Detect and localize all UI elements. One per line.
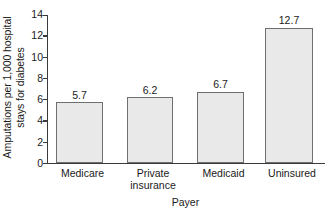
y-tick-label-4: 4 <box>23 115 43 126</box>
y-tick-label-12: 12 <box>23 30 43 41</box>
bar-value-label-medicaid: 6.7 <box>197 79 244 90</box>
bar-value-label-medicare: 5.7 <box>56 90 103 101</box>
x-axis-title-text: Payer <box>172 196 199 208</box>
y-axis-title-line-1: Amputations per 1,000 hospital <box>2 17 15 159</box>
bar-uninsured[interactable] <box>265 28 313 163</box>
x-tick-label-medicare: Medicare <box>47 167 118 179</box>
x-axis-title: Payer <box>0 196 333 208</box>
bar-private-insurance[interactable] <box>127 97 173 163</box>
x-tick-label-medicaid-line-1: Medicaid <box>190 167 257 179</box>
y-tick-label-14: 14 <box>23 9 43 20</box>
y-axis-tick-labels: 0 2 4 6 8 10 12 14 <box>23 0 43 217</box>
y-tick-label-6: 6 <box>23 94 43 105</box>
x-tick-label-private-insurance: Private insurance <box>120 167 186 191</box>
x-tick-label-medicaid: Medicaid <box>190 167 257 179</box>
x-tick-label-uninsured: Uninsured <box>259 167 325 179</box>
bar-medicaid[interactable] <box>197 92 244 163</box>
y-tick-label-10: 10 <box>23 52 43 63</box>
bar-medicare[interactable] <box>56 102 103 163</box>
x-tick-label-private-insurance-line-2: insurance <box>120 179 186 191</box>
bar-chart-figure: Amputations per 1,000 hospital stays for… <box>0 0 333 217</box>
bar-value-label-uninsured: 12.7 <box>265 15 313 26</box>
x-tick-label-private-insurance-line-1: Private <box>120 167 186 179</box>
x-tick-label-uninsured-line-1: Uninsured <box>259 167 325 179</box>
y-tick-label-0: 0 <box>23 158 43 169</box>
x-tick-label-medicare-line-1: Medicare <box>47 167 118 179</box>
bar-value-label-private-insurance: 6.2 <box>127 85 173 96</box>
y-tick-label-2: 2 <box>23 137 43 148</box>
y-tick-label-8: 8 <box>23 73 43 84</box>
plot-area: 5.7 6.2 6.7 12.7 <box>47 0 325 164</box>
